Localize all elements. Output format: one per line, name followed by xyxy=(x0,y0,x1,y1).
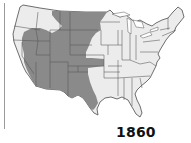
us-map xyxy=(0,0,191,122)
year-label: 1860 xyxy=(116,124,156,140)
